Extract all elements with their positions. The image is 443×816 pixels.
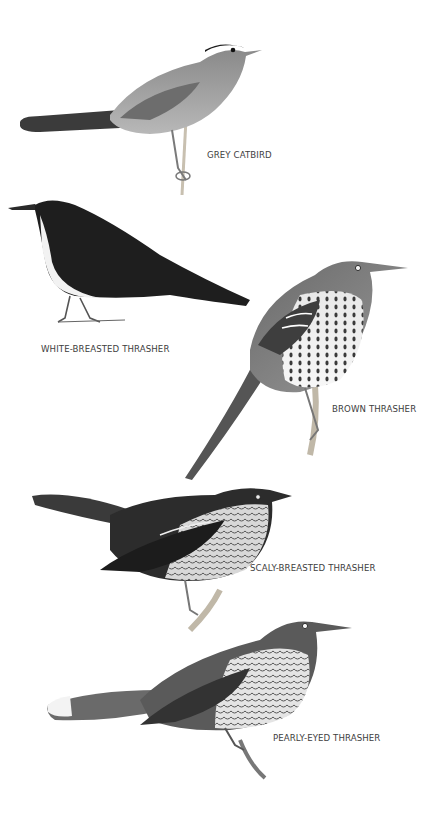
white-breasted-thrasher-label: WHITE-BREASTED THRASHER bbox=[41, 344, 169, 354]
grey-catbird-illustration bbox=[20, 44, 262, 195]
bird-illustration-plate: GREY CATBIRD WHITE-BREASTED THRASHER BRO… bbox=[0, 0, 443, 816]
pearly-eyed-thrasher-illustration bbox=[47, 621, 352, 778]
grey-catbird-label: GREY CATBIRD bbox=[207, 150, 272, 160]
white-breasted-thrasher-illustration bbox=[8, 201, 250, 323]
pearly-eyed-thrasher-label: PEARLY-EYED THRASHER bbox=[273, 733, 380, 743]
scaly-breasted-thrasher-illustration bbox=[32, 488, 292, 630]
scaly-breasted-thrasher-label: SCALY-BREASTED THRASHER bbox=[250, 563, 376, 573]
brown-thrasher-label: BROWN THRASHER bbox=[332, 404, 416, 414]
